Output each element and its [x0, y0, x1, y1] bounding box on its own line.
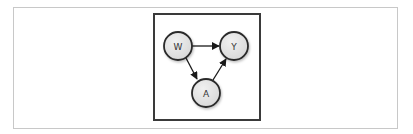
node-a-label: A [203, 89, 210, 99]
node-w: W [164, 32, 192, 60]
node-w-label: W [174, 42, 183, 52]
edge-w-to-a [186, 58, 197, 79]
node-a: A [192, 79, 220, 107]
node-y-label: Y [230, 42, 237, 52]
edge-a-to-y [213, 59, 226, 80]
node-y: Y [220, 32, 248, 60]
causal-graph: W Y A [0, 0, 413, 134]
